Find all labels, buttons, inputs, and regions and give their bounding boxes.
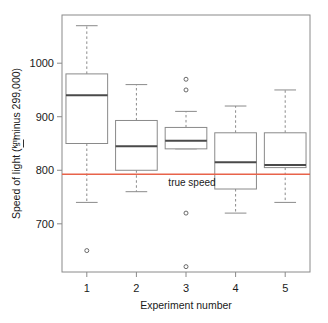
y-axis-title: Speed of light (km s minus 299,000) (10, 68, 23, 219)
outlier-3-3 (184, 265, 188, 269)
box-group-2 (116, 85, 158, 192)
y-tick-label-1000: 1000 (30, 57, 54, 69)
outlier-3-1 (184, 88, 188, 92)
y-tick-label-900: 900 (36, 111, 54, 123)
outlier-3-0 (184, 77, 188, 81)
x-tick-label-4: 4 (233, 282, 239, 294)
box-1 (66, 74, 108, 144)
box-group-4 (215, 106, 257, 213)
boxplot-svg: 700800900100012345Experiment numberSpeed… (0, 0, 328, 323)
x-tick-label-3: 3 (183, 282, 189, 294)
x-tick-label-5: 5 (282, 282, 288, 294)
box-group-5 (264, 90, 306, 202)
y-tick-label-800: 800 (36, 164, 54, 176)
y-axis-title-text: Speed of light (km s minus 299,000) (10, 68, 23, 219)
outlier-1-0 (85, 249, 89, 253)
speed-of-light-boxplot-figure: 700800900100012345Experiment numberSpeed… (0, 0, 328, 323)
box-3 (165, 127, 207, 148)
x-tick-label-2: 2 (133, 282, 139, 294)
box-group-1 (66, 26, 108, 253)
box-group-3 (165, 77, 207, 268)
y-tick-label-700: 700 (36, 218, 54, 230)
box-4 (215, 133, 257, 189)
x-tick-label-1: 1 (84, 282, 90, 294)
box-5 (264, 133, 306, 168)
x-axis-title: Experiment number (140, 299, 232, 311)
true-speed-annotation: true speed (168, 177, 215, 188)
outlier-3-2 (184, 211, 188, 215)
